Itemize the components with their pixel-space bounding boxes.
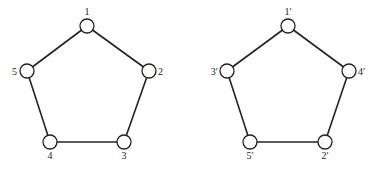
node-label: 5′ bbox=[246, 150, 253, 161]
node-label: 3 bbox=[122, 150, 127, 161]
node-1p bbox=[281, 19, 295, 33]
node-label: 2 bbox=[158, 66, 163, 77]
diagram-canvas: 123451′4′2′5′3′ bbox=[0, 0, 379, 169]
node-5p bbox=[243, 135, 257, 149]
node-label: 2′ bbox=[321, 150, 328, 161]
edge bbox=[227, 71, 250, 142]
node-5 bbox=[20, 64, 34, 78]
node-label: 4′ bbox=[358, 66, 365, 77]
right-pentagon: 1′4′2′5′3′ bbox=[211, 6, 365, 161]
edge bbox=[288, 26, 349, 71]
node-label: 3′ bbox=[211, 66, 218, 77]
node-label: 1′ bbox=[284, 6, 291, 17]
edge bbox=[87, 26, 149, 71]
node-4 bbox=[43, 135, 57, 149]
node-label: 5 bbox=[12, 66, 17, 77]
node-label: 4 bbox=[48, 150, 53, 161]
node-2 bbox=[142, 64, 156, 78]
node-4p bbox=[342, 64, 356, 78]
node-2p bbox=[318, 135, 332, 149]
node-3p bbox=[220, 64, 234, 78]
node-1 bbox=[80, 19, 94, 33]
edge bbox=[124, 71, 149, 142]
node-label: 1 bbox=[85, 6, 90, 17]
edge bbox=[27, 26, 87, 71]
edge bbox=[325, 71, 349, 142]
edge bbox=[227, 26, 288, 71]
edge bbox=[27, 71, 50, 142]
left-pentagon: 12345 bbox=[12, 6, 163, 161]
node-3 bbox=[117, 135, 131, 149]
